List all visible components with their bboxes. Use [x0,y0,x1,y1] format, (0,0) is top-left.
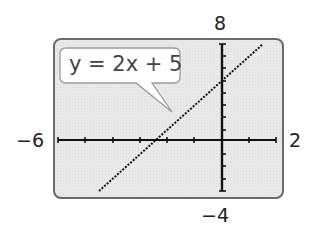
x-min-label: −6 [16,131,44,150]
y-min-label: −4 [201,206,229,225]
graphing-calculator-screen [0,0,321,230]
y-max-label: 8 [214,14,226,33]
x-max-label: 2 [289,131,301,150]
callout-equation-text: y = 2x + 5 [69,54,182,75]
